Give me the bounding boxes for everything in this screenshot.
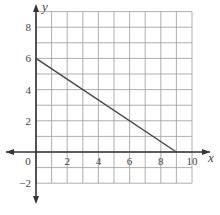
y-tick-label: 4 xyxy=(26,84,32,96)
x-tick-label: 8 xyxy=(158,155,164,167)
coordinate-plane: 0246810−22468 x y xyxy=(0,0,220,215)
y-tick-label: 8 xyxy=(26,21,32,33)
y-tick-label: 2 xyxy=(26,115,32,127)
y-tick-label: 6 xyxy=(26,52,32,64)
y-axis-label: y xyxy=(40,0,48,14)
x-tick-label: 0 xyxy=(25,155,31,167)
axes xyxy=(6,4,210,204)
x-tick-label: 10 xyxy=(187,155,199,167)
x-axis-label: x xyxy=(207,150,214,165)
x-tick-label: 2 xyxy=(64,155,70,167)
x-axis-left-arrow-icon xyxy=(6,149,14,155)
x-tick-label: 4 xyxy=(96,155,102,167)
grid xyxy=(36,12,192,184)
y-tick-label: −2 xyxy=(19,177,31,189)
x-tick-label: 6 xyxy=(127,155,133,167)
y-axis-up-arrow-icon xyxy=(33,4,39,12)
y-axis-down-arrow-icon xyxy=(33,196,39,204)
